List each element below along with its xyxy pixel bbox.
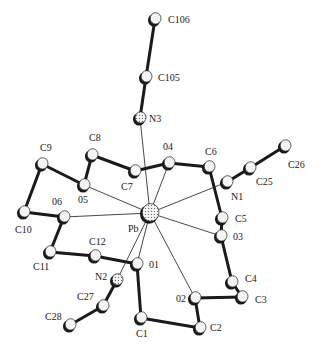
atom-c3: [235, 291, 248, 305]
atom-c106: [148, 13, 161, 27]
atom-c10: [17, 206, 30, 220]
atom-o1: [130, 258, 143, 272]
atom-c9: [35, 158, 48, 172]
atom-label-c4: C4: [245, 273, 257, 284]
atom-c8: [85, 149, 98, 163]
atom-label-c28: C28: [45, 311, 62, 322]
atom-n2: [110, 274, 123, 288]
bond-c106-c105: [146, 19, 155, 77]
atom-c7: [128, 165, 141, 179]
atom-label-pb: Pb: [128, 223, 139, 234]
bond-c6-c5: [209, 167, 222, 218]
atom-o6: [57, 211, 70, 225]
atom-label-c3: C3: [255, 294, 267, 305]
atom-label-c5: C5: [235, 213, 247, 224]
bond-c3-o2: [195, 297, 242, 298]
bond-c1-o1: [137, 264, 141, 318]
atom-label-c8: C8: [89, 132, 101, 143]
atom-label-c12: C12: [89, 236, 106, 247]
atom-pb: [140, 204, 159, 224]
atom-n1: [220, 176, 233, 190]
atom-label-c26: C26: [288, 159, 305, 170]
atom-c12: [88, 250, 101, 264]
atom-label-o2: 02: [176, 293, 186, 304]
atom-c28: [63, 319, 76, 333]
atom-c26: [278, 140, 291, 154]
molecule-diagram: C106C105N3C8C905C704C6N1C25C26C503C4C3Pb…: [0, 0, 318, 350]
atom-label-c9: C9: [40, 142, 52, 153]
atom-c2: [193, 322, 206, 336]
atom-layer: [17, 13, 291, 336]
bond-c8-c7: [92, 155, 135, 171]
bond-pb-n3: [140, 118, 150, 213]
atom-label-c11: C11: [33, 261, 49, 272]
atom-label-o4: 04: [163, 141, 173, 152]
atom-c27: [96, 300, 109, 314]
atom-label-c6: C6: [205, 146, 217, 157]
atom-o2: [188, 292, 201, 306]
bond-c9-o5: [42, 164, 84, 185]
atom-label-c27: C27: [77, 291, 94, 302]
atom-label-n1: N1: [231, 191, 243, 202]
atom-c6: [202, 161, 215, 175]
bond-pb-o5: [84, 185, 150, 213]
bond-c12-c11: [50, 252, 95, 256]
atom-c5: [215, 212, 228, 226]
bond-o3-c4: [221, 236, 232, 282]
atom-label-o1: 01: [149, 259, 159, 270]
molecule-svg: C106C105N3C8C905C704C6N1C25C26C503C4C3Pb…: [0, 0, 318, 350]
bond-c2-c1: [141, 318, 200, 328]
atom-o3: [214, 230, 227, 244]
atom-label-o6: 06: [52, 196, 62, 207]
atom-o4: [162, 157, 175, 171]
atom-label-c25: C25: [256, 176, 273, 187]
atom-label-c105: C105: [158, 72, 180, 83]
atom-n3: [133, 112, 146, 126]
atom-c11: [43, 246, 56, 260]
atom-label-o5: 05: [78, 194, 88, 205]
atom-label-n2: N2: [95, 271, 107, 282]
atom-c105: [139, 71, 152, 85]
atom-c1: [134, 312, 147, 326]
atom-label-c7: C7: [121, 181, 133, 192]
atom-label-c10: C10: [15, 224, 32, 235]
bond-pb-o6: [64, 213, 150, 217]
atom-label-o3: 03: [233, 231, 243, 242]
atom-c25: [243, 162, 256, 176]
atom-label-c106: C106: [168, 14, 190, 25]
atom-label-n3: N3: [149, 113, 161, 124]
atom-o5: [77, 179, 90, 193]
atom-label-c2: C2: [210, 322, 222, 333]
atom-label-c1: C1: [136, 328, 148, 339]
label-layer: C106C105N3C8C905C704C6N1C25C26C503C4C3Pb…: [15, 14, 305, 339]
